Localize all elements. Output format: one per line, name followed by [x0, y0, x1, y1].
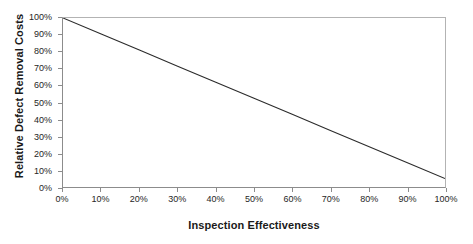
- chart-figure: Relative Defect Removal Costs 0%10%20%30…: [0, 0, 473, 244]
- x-tick-mark: [369, 188, 370, 192]
- x-tick-mark: [292, 188, 293, 192]
- y-tick-label: 20%: [8, 149, 52, 159]
- y-tick-label: 0%: [8, 183, 52, 193]
- y-tick-mark: [58, 51, 62, 52]
- x-tick-mark: [254, 188, 255, 192]
- y-tick-label: 10%: [8, 166, 52, 176]
- y-tick-label: 40%: [8, 115, 52, 125]
- y-tick-label: 70%: [8, 63, 52, 73]
- y-tick-mark: [58, 17, 62, 18]
- x-tick-mark: [408, 188, 409, 192]
- y-tick-mark: [58, 85, 62, 86]
- y-tick-mark: [58, 34, 62, 35]
- y-tick-label: 60%: [8, 80, 52, 90]
- x-tick-mark: [177, 188, 178, 192]
- y-tick-mark: [58, 171, 62, 172]
- data-series-line: [63, 18, 445, 179]
- x-tick-mark: [100, 188, 101, 192]
- y-tick-mark: [58, 103, 62, 104]
- y-tick-label: 80%: [8, 46, 52, 56]
- y-tick-label: 30%: [8, 132, 52, 142]
- x-tick-mark: [446, 188, 447, 192]
- x-tick-mark: [62, 188, 63, 192]
- y-tick-mark: [58, 154, 62, 155]
- y-tick-mark: [58, 137, 62, 138]
- y-tick-label: 100%: [8, 12, 52, 22]
- y-tick-label: 50%: [8, 98, 52, 108]
- x-tick-mark: [331, 188, 332, 192]
- y-tick-label: 90%: [8, 29, 52, 39]
- plot-area: [62, 17, 446, 188]
- y-tick-mark: [58, 120, 62, 121]
- x-tick-mark: [139, 188, 140, 192]
- plot-line-svg: [63, 18, 445, 187]
- x-tick-label: 100%: [423, 194, 469, 204]
- x-tick-mark: [216, 188, 217, 192]
- x-axis-title: Inspection Effectiveness: [62, 219, 446, 231]
- y-tick-mark: [58, 68, 62, 69]
